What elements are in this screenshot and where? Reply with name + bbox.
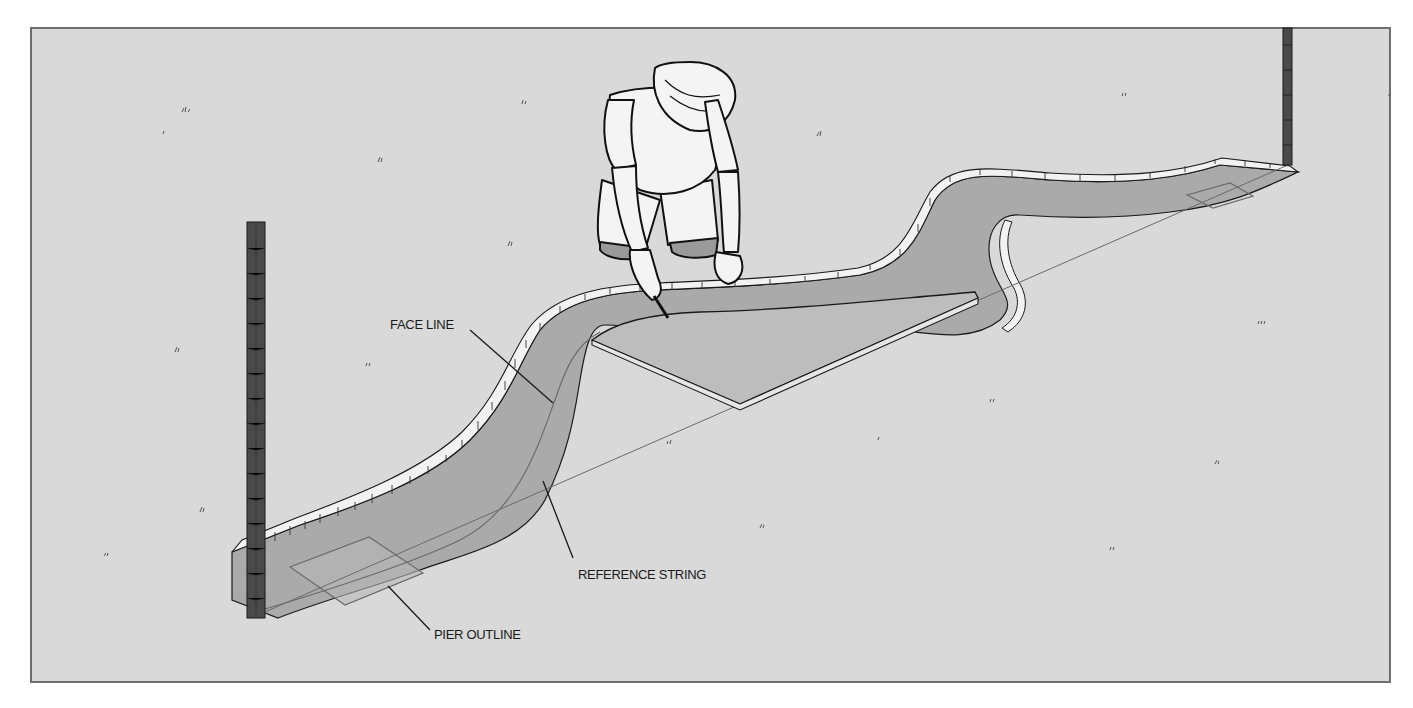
stake-right — [1283, 28, 1292, 165]
label-pier-outline: PIER OUTLINE — [434, 627, 521, 642]
stake-left — [247, 222, 265, 618]
label-reference-string: REFERENCE STRING — [578, 567, 706, 582]
label-face-line: FACE LINE — [390, 317, 454, 332]
serpentine-wall-layout-illustration — [0, 0, 1413, 708]
